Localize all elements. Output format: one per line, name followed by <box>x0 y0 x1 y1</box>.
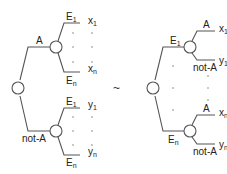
left-a-e1-line <box>58 23 80 41</box>
left-a-chance-node <box>50 41 62 53</box>
left-a-en-label: En <box>66 75 77 87</box>
right-e1-nota-line <box>192 53 215 60</box>
left-xn-label: xn <box>88 63 97 75</box>
left-label-not-a: not-A <box>22 133 46 144</box>
left-nota-chance-node <box>50 125 62 137</box>
left-label-a: A <box>36 35 43 46</box>
left-x1-label: x1 <box>88 15 97 27</box>
right-e1-label: E1 <box>170 35 181 47</box>
right-xn-label: xn <box>219 107 227 119</box>
right-e1-decision-node <box>184 41 196 53</box>
right-tree: E1 En A not-A A not-A x1 y1 xn yn <box>147 19 227 157</box>
left-a-e1-label: E1 <box>66 11 77 23</box>
left-nota-en-line <box>58 137 80 155</box>
left-y1-label: y1 <box>88 99 97 111</box>
left-ellipsis-dots <box>72 32 92 145</box>
left-nota-e1-label: E1 <box>66 96 77 108</box>
left-branch-a-line <box>20 47 50 80</box>
left-nota-en-label: En <box>66 157 77 169</box>
right-e1-a-line <box>192 31 215 41</box>
right-x1-label: x1 <box>219 23 227 35</box>
right-en-nota-label: not-A <box>193 146 217 157</box>
right-branch-e1-line <box>155 47 184 80</box>
left-a-en-line <box>58 53 80 72</box>
decision-tree-diagram: A not-A E1 En x1 xn E1 En y1 yn ~ E <box>0 0 227 174</box>
right-en-label: En <box>168 134 179 146</box>
right-root-node <box>147 82 159 94</box>
equivalence-tilde: ~ <box>113 81 120 95</box>
left-branch-not-a-line <box>20 96 50 131</box>
right-branch-en-line <box>155 96 184 131</box>
right-yn-label: yn <box>219 139 227 151</box>
left-tree: A not-A E1 En x1 xn E1 En y1 yn <box>12 11 97 169</box>
right-en-nota-line <box>192 137 215 144</box>
right-y1-label: y1 <box>219 55 227 67</box>
left-nota-e1-line <box>58 108 80 125</box>
right-e1-a-label: A <box>203 19 210 30</box>
right-en-a-label: A <box>203 103 210 114</box>
right-e1-nota-label: not-A <box>193 62 217 73</box>
right-en-a-line <box>192 115 215 125</box>
left-yn-label: yn <box>88 146 97 158</box>
right-en-decision-node <box>184 125 196 137</box>
left-root-node <box>12 82 24 94</box>
